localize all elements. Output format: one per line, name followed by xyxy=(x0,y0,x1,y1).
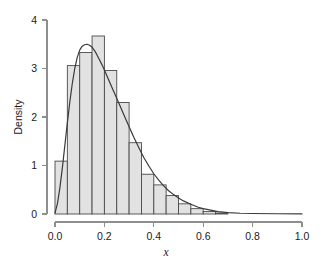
y-axis-tick-labels: 01234 xyxy=(31,14,37,220)
y-axis-title: Density xyxy=(12,99,24,135)
x-axis-tick-label: 0.2 xyxy=(97,230,112,242)
histogram-bar xyxy=(129,143,141,214)
histogram-bar xyxy=(92,36,104,214)
histogram-bars xyxy=(55,36,228,214)
x-axis-tick-label: 0.4 xyxy=(146,230,161,242)
x-axis-title: x xyxy=(162,246,169,258)
chart-canvas: 0.00.20.40.60.81.0 x 01234 Density xyxy=(0,0,325,274)
y-axis-tick-label: 0 xyxy=(31,208,37,220)
histogram-bar xyxy=(80,53,92,215)
density-histogram-figure: 0.00.20.40.60.81.0 x 01234 Density xyxy=(0,0,325,274)
x-axis-tick-label: 1.0 xyxy=(295,230,310,242)
y-axis: 01234 Density xyxy=(12,14,47,220)
histogram-bar xyxy=(166,196,178,214)
histogram-bar xyxy=(179,204,191,214)
x-axis-tick-label: 0.6 xyxy=(196,230,211,242)
histogram-bar xyxy=(154,185,166,214)
histogram-bar xyxy=(104,70,116,214)
x-axis: 0.00.20.40.60.81.0 x xyxy=(48,222,310,258)
histogram-bar xyxy=(117,102,129,214)
histogram-bar xyxy=(67,66,79,214)
x-axis-tick-label: 0.0 xyxy=(48,230,63,242)
histogram-bar xyxy=(216,213,228,214)
y-axis-tick-label: 4 xyxy=(31,14,37,26)
histogram-bar xyxy=(203,212,215,214)
histogram-bar xyxy=(191,209,203,214)
x-axis-tick-labels: 0.00.20.40.60.81.0 xyxy=(48,230,310,242)
y-axis-tick-label: 3 xyxy=(31,62,37,74)
y-axis-tick-label: 1 xyxy=(31,159,37,171)
x-axis-ticks xyxy=(55,222,302,227)
x-axis-tick-label: 0.8 xyxy=(245,230,260,242)
y-axis-tick-label: 2 xyxy=(31,111,37,123)
y-axis-ticks xyxy=(42,20,47,214)
histogram-bar xyxy=(141,174,153,214)
